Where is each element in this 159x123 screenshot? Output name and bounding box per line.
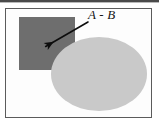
diagram-shapes-svg <box>0 0 159 123</box>
set-difference-label: A - B <box>88 8 115 22</box>
figure-root: A - B <box>0 0 159 123</box>
diagram-canvas: A - B <box>0 0 159 123</box>
set-b-ellipse <box>51 37 147 111</box>
